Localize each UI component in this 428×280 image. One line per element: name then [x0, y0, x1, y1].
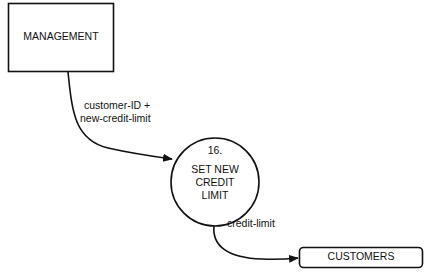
flow-arrow-process-to-customers: [214, 226, 298, 259]
process-number: 16.: [185, 144, 245, 157]
flow-label-new-credit-limit: new-credit-limit: [80, 112, 151, 125]
flow-label-customer-id: customer-ID +: [84, 99, 150, 112]
management-label: MANAGEMENT: [8, 30, 114, 43]
flow-label-credit-limit: credit-limit: [227, 217, 275, 230]
process-label-line-1: SET NEW: [175, 163, 255, 176]
process-label-line-2: CREDIT: [175, 176, 255, 189]
customers-label: CUSTOMERS: [299, 250, 423, 263]
process-label-line-3: LIMIT: [175, 189, 255, 202]
